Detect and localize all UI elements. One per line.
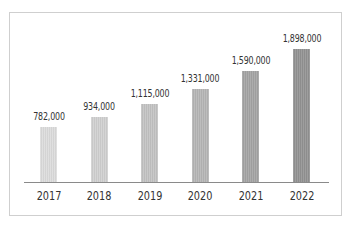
x-tick-label-2018: 2018 <box>77 189 122 203</box>
x-axis-baseline <box>24 182 329 183</box>
x-tick-label-2021: 2021 <box>228 189 273 203</box>
value-label-2018: 934,000 <box>68 101 130 112</box>
value-label-2017: 782,000 <box>18 111 80 122</box>
bar-2019 <box>141 104 158 182</box>
bar-2018 <box>91 117 108 182</box>
bar-2022 <box>293 49 310 182</box>
bar-2017 <box>40 127 57 182</box>
bar-2020 <box>192 89 209 182</box>
x-tick-label-2022: 2022 <box>279 189 324 203</box>
value-label-2021: 1,590,000 <box>220 55 282 66</box>
value-label-2022: 1,898,000 <box>271 33 333 44</box>
x-tick-label-2019: 2019 <box>127 189 172 203</box>
value-label-2020: 1,331,000 <box>169 73 231 84</box>
x-tick-label-2020: 2020 <box>178 189 223 203</box>
bar-chart: 782,000 934,000 1,115,000 1,331,000 1,59… <box>0 0 353 226</box>
bar-2021 <box>242 71 259 182</box>
x-tick-label-2017: 2017 <box>26 189 71 203</box>
value-label-2019: 1,115,000 <box>119 88 181 99</box>
